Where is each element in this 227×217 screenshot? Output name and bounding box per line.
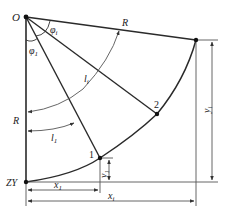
label-radius-left: R — [12, 115, 19, 126]
point-end — [194, 38, 198, 42]
start-point-zy — [24, 180, 28, 184]
label-radius-top: R — [121, 17, 128, 28]
diagram-svg: O ZY R R φi φ1 li l1 1 2 x1 xi y1 yi — [0, 0, 227, 217]
angle-arc-phi-1 — [26, 38, 38, 41]
label-phi-1: φ1 — [29, 45, 38, 58]
curve-diagram: O ZY R R φi φ1 li l1 1 2 x1 xi y1 yi — [0, 0, 227, 217]
circular-curve — [26, 40, 196, 182]
point-1 — [98, 156, 102, 160]
label-origin: O — [12, 11, 20, 23]
point-2 — [155, 112, 159, 116]
label-arc-l1: l1 — [51, 132, 57, 145]
origin-point — [24, 15, 29, 20]
label-point-1: 1 — [89, 149, 94, 160]
arc-length-l1 — [28, 123, 74, 131]
label-point-2: 2 — [154, 99, 159, 110]
label-arc-li: li — [84, 73, 89, 86]
label-zy: ZY — [6, 177, 19, 188]
